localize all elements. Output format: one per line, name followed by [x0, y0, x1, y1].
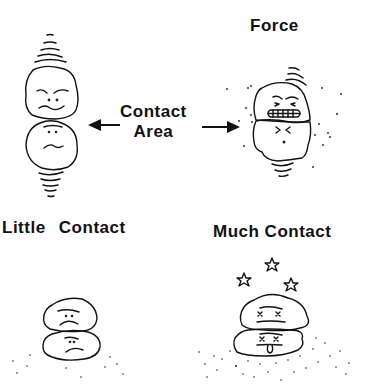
bottom-right-particles — [198, 258, 350, 381]
stars-icon — [237, 258, 298, 291]
sad-face-lower-icon — [65, 337, 83, 352]
gritted-face-icon — [268, 96, 300, 117]
little-lower-particle-icon — [43, 330, 100, 360]
force-vibration-top-icon — [286, 68, 306, 85]
much-contact-label: Much Contact — [213, 222, 331, 242]
contact-area-line2: Area — [120, 122, 187, 142]
force-dust-dots — [226, 85, 342, 168]
little-contact-label: Little Contact — [2, 218, 126, 238]
contact-area-line1: Contact — [120, 102, 187, 122]
dizzy-face-lower-icon — [257, 333, 282, 353]
squint-eyes-icon — [276, 127, 290, 133]
angry-face-icon — [37, 90, 68, 110]
force-lower-particle-icon — [253, 120, 310, 161]
much-upper-particle-icon — [240, 294, 308, 330]
bottom-left-particles — [12, 298, 124, 378]
much-dust-dots — [198, 337, 350, 381]
arrow-right-icon — [202, 121, 240, 133]
diagram-canvas — [0, 0, 368, 387]
little-dust-dots — [12, 354, 124, 378]
upper-particle-icon — [26, 66, 78, 119]
force-label: Force — [250, 16, 299, 36]
force-vibration-bottom-icon — [272, 163, 293, 176]
sad-face-upper-icon — [58, 310, 79, 325]
vibration-lines-top-icon — [35, 35, 66, 63]
dizzy-face-upper-icon — [257, 307, 285, 322]
little-upper-particle-icon — [44, 298, 97, 331]
arrow-left-icon — [88, 119, 120, 131]
top-right-particles — [226, 68, 342, 177]
top-left-particles — [26, 35, 78, 197]
vibration-lines-bottom-icon — [39, 172, 63, 197]
worried-face-icon — [44, 126, 63, 149]
contact-area-label: Contact Area — [120, 102, 187, 142]
